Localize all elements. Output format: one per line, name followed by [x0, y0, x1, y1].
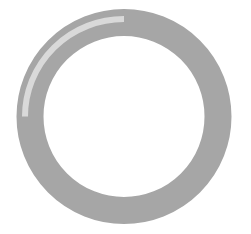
loading-spinner: [0, 0, 251, 234]
spinner-track: [30, 23, 218, 211]
ring-icon: [0, 0, 251, 234]
